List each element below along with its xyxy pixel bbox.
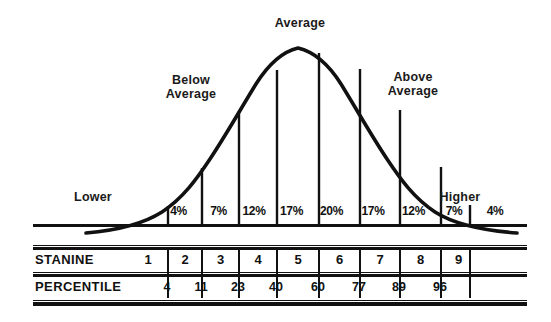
percent-cell: 7% bbox=[202, 204, 235, 218]
table-rule-bottom-thick bbox=[33, 302, 527, 306]
percentile-value: 89 bbox=[384, 280, 414, 294]
percent-cell: 4% bbox=[156, 204, 201, 218]
percent-cell: 12% bbox=[236, 204, 272, 218]
percentile-value: 77 bbox=[344, 280, 374, 294]
percent-cell: 17% bbox=[353, 204, 393, 218]
stanine-cell: 3 bbox=[203, 252, 238, 267]
percent-row: 4% 7% 12% 17% 20% 17% 12% 7% 4% bbox=[33, 202, 527, 224]
stanine-cell: 1 bbox=[129, 252, 167, 267]
stanine-cell: 4 bbox=[240, 252, 276, 267]
stanine-percentile-table: 4% 7% 12% 17% 20% 17% 12% 7% 4% STANINE bbox=[33, 224, 527, 314]
percentile-value: 23 bbox=[223, 280, 253, 294]
percentile-row: 4 11 23 40 60 77 89 96 bbox=[33, 277, 527, 300]
stanine-distribution-figure: Lower Higher Below Average Above Average… bbox=[0, 0, 551, 322]
percent-cell: 4% bbox=[475, 204, 515, 218]
stanine-cell: 6 bbox=[320, 252, 359, 267]
percent-cell: 17% bbox=[273, 204, 310, 218]
stanine-cell: 8 bbox=[401, 252, 440, 267]
table-rule-top-thick bbox=[33, 224, 527, 227]
stanine-cell: 5 bbox=[278, 252, 318, 267]
percentile-value: 96 bbox=[425, 280, 455, 294]
percent-cell: 12% bbox=[394, 204, 433, 218]
stanine-cell: 9 bbox=[442, 252, 475, 267]
percentile-value: 40 bbox=[261, 280, 291, 294]
percentile-value: 60 bbox=[303, 280, 333, 294]
percentile-value: 11 bbox=[186, 280, 216, 294]
label-average: Average bbox=[262, 16, 338, 30]
stanine-cell: 7 bbox=[361, 252, 399, 267]
table-rule-4 bbox=[33, 272, 527, 273]
table-rule-6 bbox=[33, 300, 527, 301]
percent-cell: 7% bbox=[434, 204, 474, 218]
label-above-average: Above Average bbox=[374, 70, 452, 98]
stanine-cell: 2 bbox=[169, 252, 201, 267]
percentile-value: 4 bbox=[152, 280, 182, 294]
label-below-average: Below Average bbox=[152, 73, 230, 101]
table-rule-2 bbox=[33, 245, 527, 246]
stanine-row: 1 2 3 4 5 6 7 8 9 bbox=[33, 250, 527, 272]
percent-cell: 20% bbox=[311, 204, 352, 218]
